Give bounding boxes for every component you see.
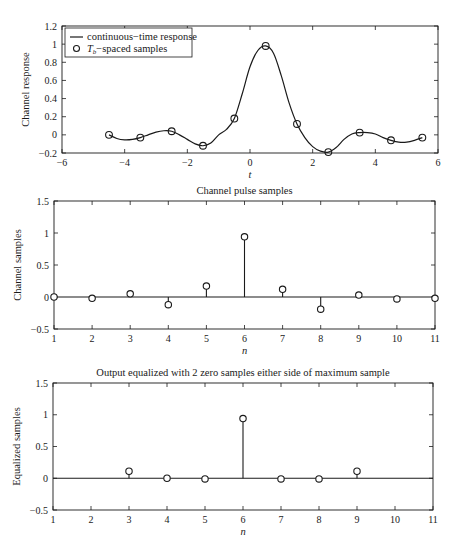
x-tick-label: 2 (90, 333, 95, 344)
y-tick-label: 1 (52, 39, 57, 50)
stem-marker (279, 286, 285, 292)
stem-marker (354, 468, 360, 474)
stem-marker (89, 295, 95, 301)
stem-marker (203, 283, 209, 289)
x-tick-label: 6 (436, 157, 441, 168)
figure: −6−4−20246−0.200.20.40.60.811.2tChannel … (0, 0, 459, 546)
x-tick-label: 6 (242, 333, 247, 344)
x-tick-label: 5 (204, 333, 209, 344)
y-tick-label: 1 (44, 228, 49, 239)
x-tick-label: 2 (310, 157, 315, 168)
stem-marker (126, 468, 132, 474)
x-tick-label: 4 (373, 157, 378, 168)
y-tick-label: 0 (44, 292, 49, 303)
stem-marker (278, 476, 284, 482)
y-tick-label: 1.5 (36, 378, 49, 389)
y-tick-label: 0.4 (45, 93, 58, 104)
stem-marker (240, 415, 246, 421)
x-axis-label: n (240, 526, 245, 537)
y-axis-label: Channel response (20, 52, 31, 127)
x-tick-label: 9 (355, 514, 360, 525)
y-tick-label: −0.5 (30, 505, 48, 516)
x-tick-label: 9 (356, 333, 361, 344)
x-axis-label: t (249, 169, 253, 180)
stem-marker (241, 234, 247, 240)
y-tick-label: −0.2 (39, 148, 57, 159)
x-tick-label: 8 (318, 333, 323, 344)
y-tick-label: 0.5 (37, 260, 50, 271)
channel-pulse-samples-chart: 1234567891011−0.500.511.5nChannel sample… (12, 185, 440, 356)
x-tick-label: 3 (127, 514, 132, 525)
y-tick-label: −0.5 (31, 324, 49, 335)
x-tick-label: 7 (279, 514, 284, 525)
stem-marker (127, 291, 133, 297)
x-tick-label: 5 (203, 514, 208, 525)
x-tick-label: 6 (241, 514, 246, 525)
x-tick-label: 10 (392, 333, 402, 344)
stem-marker (202, 476, 208, 482)
legend-entry-continuous: continuous−time response (87, 31, 197, 42)
x-tick-label: 10 (390, 514, 400, 525)
x-tick-label: 11 (428, 514, 438, 525)
y-tick-label: 1.5 (37, 196, 50, 207)
y-tick-label: 1.2 (45, 21, 58, 32)
x-tick-label: 8 (317, 514, 322, 525)
x-tick-label: 2 (89, 514, 94, 525)
y-axis-label: Equalized samples (11, 407, 22, 485)
x-tick-label: 0 (248, 157, 253, 168)
stem-marker (394, 296, 400, 302)
continuous-response-line (109, 46, 422, 152)
stem-marker (432, 295, 438, 301)
chart-title: Channel pulse samples (196, 185, 292, 196)
y-tick-label: 0.6 (45, 75, 58, 86)
figure-canvas: −6−4−20246−0.200.20.40.60.811.2tChannel … (0, 0, 459, 546)
legend: continuous−time responseTb−spaced sample… (65, 28, 197, 57)
x-tick-label: −6 (57, 157, 68, 168)
x-tick-label: 1 (51, 514, 56, 525)
stem-marker (51, 294, 57, 300)
y-tick-label: 0 (52, 129, 57, 140)
x-axis-label: n (242, 345, 247, 356)
stem-marker (316, 476, 322, 482)
x-tick-label: 11 (430, 333, 440, 344)
x-tick-label: 4 (166, 333, 171, 344)
stem-marker (356, 292, 362, 298)
x-tick-label: −2 (182, 157, 193, 168)
x-tick-label: 3 (128, 333, 133, 344)
y-axis-label: Channel samples (12, 229, 23, 300)
x-tick-label: −4 (119, 157, 130, 168)
y-tick-label: 0 (43, 473, 48, 484)
stem-marker (165, 301, 171, 307)
chart-title: Output equalized with 2 zero samples eit… (96, 367, 390, 378)
stem-marker (318, 306, 324, 312)
y-tick-label: 1 (43, 409, 48, 420)
x-tick-label: 4 (165, 514, 170, 525)
y-tick-label: 0.5 (36, 441, 49, 452)
y-tick-label: 0.8 (45, 57, 58, 68)
x-tick-label: 1 (52, 333, 57, 344)
y-tick-label: 0.2 (45, 111, 58, 122)
x-tick-label: 7 (280, 333, 285, 344)
continuous-response-chart: −6−4−20246−0.200.20.40.60.811.2tChannel … (20, 21, 441, 181)
stem-marker (164, 475, 170, 481)
equalized-samples-chart: 1234567891011−0.500.511.5nEqualized samp… (11, 367, 438, 537)
